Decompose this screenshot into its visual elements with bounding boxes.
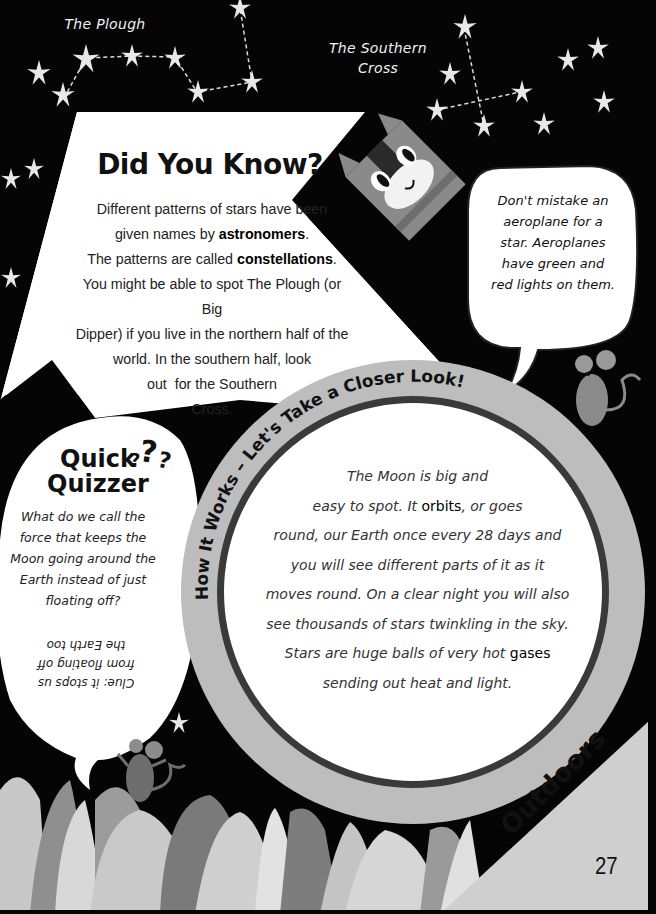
- term-gases: gases: [510, 645, 551, 661]
- did-you-know-title: Did You Know?: [90, 148, 330, 181]
- page-number: 27: [595, 852, 618, 880]
- label-southern-cross: The Southern Cross: [318, 38, 438, 78]
- label-plough: The Plough: [50, 14, 160, 34]
- question-marks-icon: ???: [130, 440, 171, 475]
- term-astronomers: astronomers: [219, 225, 305, 242]
- how-it-works-body: The Moon is big and easy to spot. It orb…: [250, 462, 585, 698]
- did-you-know-body: Different patterns of stars have been gi…: [74, 196, 350, 421]
- quiz-clue-upside-down: Clue: it stops us from floating off the …: [26, 635, 146, 692]
- book-page: How It Works – Let's Take a Closer Look!…: [0, 0, 656, 914]
- quiz-question: What do we call the force that keeps the…: [8, 506, 158, 611]
- tip-bubble-text: Don't mistake an aeroplane for a star. A…: [480, 190, 626, 295]
- term-orbits: orbits: [422, 498, 462, 514]
- term-constellations: constellations: [237, 250, 333, 267]
